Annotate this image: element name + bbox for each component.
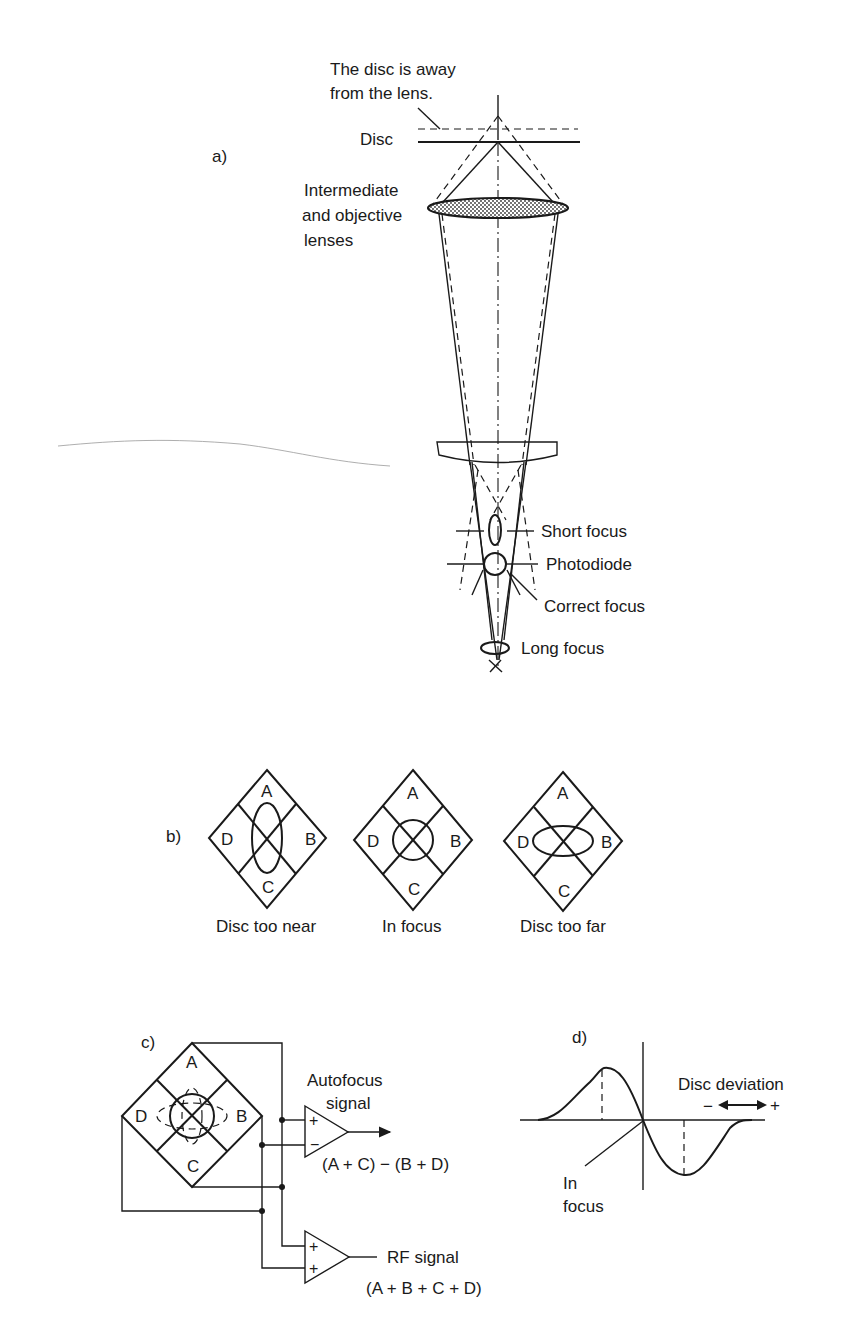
lens-label-line2: and objective [302,206,402,225]
arrow-right-head [757,1100,767,1110]
quadrant-b-label: B [305,830,316,849]
autofocus-formula: (A + C) − (B + D) [322,1155,449,1174]
rf-signal-label: RF signal [387,1248,459,1267]
short-focus-label: Short focus [541,522,627,541]
in-focus-leader [585,1121,643,1166]
caption-in-focus: In focus [382,917,442,936]
quadrant-b-label: B [601,833,612,852]
quadrant-d-label: D [367,832,379,851]
panel-d-label: d) [572,1028,587,1047]
amp2-plus-sign-1: + [309,1238,318,1255]
quadrant-a-label: A [407,784,419,803]
junction-dot [259,1208,265,1214]
quadrant-d-label: D [517,833,529,852]
quadrant-c-label: C [187,1157,199,1176]
objective-lens [428,198,568,218]
ray [439,214,470,465]
autofocus-label-line1: Autofocus [307,1071,383,1090]
caption-disc-too-far: Disc too far [520,917,606,936]
quadrant-a-label: A [557,784,569,803]
in-focus-label-line2: focus [563,1197,604,1216]
junction-dot [279,1184,285,1190]
quad-detector-in-focus: A B C D In focus [354,770,472,936]
in-focus-label-line1: In [563,1174,577,1193]
amp1-minus-sign: − [310,1136,319,1153]
disc-label: Disc [360,130,394,149]
photodiode-spot [484,553,506,575]
panel-b-label: b) [166,827,181,846]
ray-dashed [490,465,521,520]
quad-detector-too-near: A B C D Disc too near [209,770,326,936]
long-focus-label: Long focus [521,639,604,658]
correct-focus-label: Correct focus [544,597,645,616]
plus-sign: + [770,1096,780,1115]
minus-sign: − [703,1097,713,1116]
ray [443,142,498,202]
lens-label-line3: lenses [304,231,353,250]
ray [526,214,558,465]
disc-away-annotation-line1: The disc is away [330,60,456,79]
panel-a: a) The disc is away from the lens. Disc … [58,60,645,672]
annotation-leader-line [418,108,440,129]
ray-dashed [518,470,535,590]
quadrant-a-label: A [261,782,273,801]
caption-disc-too-near: Disc too near [216,917,316,936]
disc-deviation-label: Disc deviation [678,1075,784,1094]
quad-detector-too-far: A B C D Disc too far [504,772,622,936]
quadrant-d-label: D [135,1107,147,1126]
quadrant-c-label: C [262,878,274,897]
focus-system-figure: a) The disc is away from the lens. Disc … [0,0,859,1341]
quadrant-b-label: B [236,1107,247,1126]
junction-dot [259,1142,265,1148]
rf-formula: (A + B + C + D) [366,1279,482,1298]
quadrant-b-label: B [450,832,461,851]
wire-b [262,1116,305,1268]
quad-detector-circuit: A B C D [122,1043,262,1187]
arrow-left-head [718,1100,728,1110]
panel-b: b) A B C D Disc too near A B C D In focu… [166,770,622,936]
quadrant-c-label: C [408,880,420,899]
junction-dot [279,1117,285,1123]
ray-dashed [522,214,555,465]
ray-dashed [442,214,474,465]
quadrant-a-label: A [186,1053,198,1072]
amp1-plus-sign: + [309,1112,318,1129]
panel-c-label: c) [141,1033,155,1052]
ray-dashed [460,470,478,590]
amp2-plus-sign-2: + [309,1260,318,1277]
short-focus-spot [489,515,501,545]
photodiode-label: Photodiode [546,555,632,574]
disc-away-annotation-line2: from the lens. [330,84,433,103]
panel-a-label: a) [212,147,227,166]
ray [498,142,553,202]
stray-mark [58,440,390,466]
ray-dashed [475,465,506,520]
quadrant-d-label: D [221,830,233,849]
quadrant-c-label: C [558,882,570,901]
ray [472,570,483,595]
panel-d: d) In focus Disc deviation − + [520,1028,784,1216]
panel-c: c) A B C D + − Autofocus signa [122,1033,482,1298]
cylindrical-lens [437,442,557,463]
autofocus-label-line2: signal [326,1094,370,1113]
lens-label-line1: Intermediate [304,181,399,200]
